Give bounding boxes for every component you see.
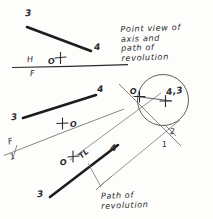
top-view-line-34 [27, 27, 91, 51]
label-aux-view-point-4: 4 [110, 143, 117, 154]
top-view-group [27, 27, 91, 64]
label-aux-view-point-3: 3 [37, 189, 44, 200]
label-top-view-axis-o: O [48, 57, 56, 67]
label-fold-1-right: 1 [161, 140, 168, 150]
point-view-group [134, 75, 189, 126]
top-view-axis-plus-icon [55, 53, 66, 64]
label-front-view-point-3: 3 [10, 112, 18, 123]
label-fold-f-upper: F [30, 69, 36, 79]
front-view-axis-plus-icon [57, 118, 68, 129]
hf-fold-line-group [12, 65, 128, 68]
drawing-canvas-root: 3 4 O H F 3 4 O F 1 3 4 O TL 2 1 O 4,3 P… [0, 0, 213, 219]
note-path-of-revolution: Path of revolution [101, 190, 149, 211]
label-fold-h: H [27, 55, 34, 65]
front-view-line-34 [23, 95, 96, 118]
label-aux-view-axis-o: O [59, 158, 67, 168]
label-front-view-axis-o: O [70, 120, 78, 130]
label-top-view-point-4: 4 [94, 42, 101, 53]
label-fold-2: 2 [169, 127, 176, 137]
label-point-view-axis-o: O [129, 87, 137, 97]
label-front-view-point-4: 4 [97, 84, 104, 95]
note-point-view-of-axis: Point view of axis and path of revolutio… [120, 23, 182, 64]
path-of-revolution-leader-2 [88, 163, 101, 187]
f1-reference-line [4, 109, 124, 156]
hf-reference-line [12, 65, 128, 68]
label-top-view-point-3: 3 [25, 8, 32, 19]
